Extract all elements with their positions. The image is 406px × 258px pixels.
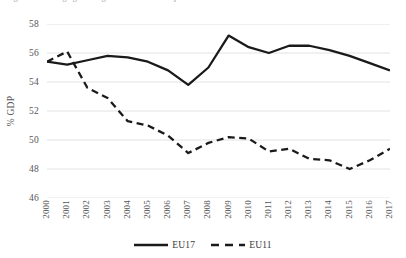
x-axis-tick-label: 2008 bbox=[202, 200, 214, 219]
y-axis-tick-label: 56 bbox=[29, 48, 39, 58]
chart-legend: EU17EU11 bbox=[0, 240, 406, 250]
x-axis-tick-label: 2006 bbox=[162, 200, 174, 219]
y-axis-tick-label: 58 bbox=[29, 19, 39, 29]
x-axis-tick-label: 2004 bbox=[122, 200, 134, 219]
x-axis-tick-label: 2001 bbox=[61, 200, 73, 219]
x-axis-tick-label: 2000 bbox=[41, 200, 53, 219]
y-axis-title: % GDP bbox=[6, 81, 16, 141]
series-line-eu11 bbox=[47, 52, 390, 169]
legend-entry-eu17[interactable]: EU17 bbox=[134, 240, 195, 250]
x-axis-tick-labels: 2000200120022003200420052006200720082009… bbox=[47, 200, 390, 234]
y-axis-tick-label: 52 bbox=[29, 106, 39, 116]
x-axis-tick-label: 2013 bbox=[303, 200, 315, 219]
y-axis-tick-label: 46 bbox=[29, 193, 39, 203]
legend-swatch-eu11 bbox=[211, 241, 245, 249]
figure-container: Figure 1: Average general government tot… bbox=[0, 0, 406, 258]
x-axis-tick-label: 2017 bbox=[384, 200, 396, 219]
y-axis-tick-label: 54 bbox=[29, 77, 39, 87]
x-axis-tick-label: 2014 bbox=[323, 200, 335, 219]
y-axis-tick-label: 50 bbox=[29, 135, 39, 145]
x-axis-tick-label: 2015 bbox=[344, 200, 356, 219]
legend-swatch-eu17 bbox=[134, 241, 168, 249]
x-axis-tick-label: 2002 bbox=[81, 200, 93, 219]
x-axis-tick-label: 2003 bbox=[102, 200, 114, 219]
x-axis-tick-label: 2005 bbox=[142, 200, 154, 219]
figure-title-strip: Figure 1: Average general government tot… bbox=[0, 0, 406, 5]
y-axis-tick-label: 48 bbox=[29, 164, 39, 174]
series-lines bbox=[47, 24, 390, 198]
series-line-eu17 bbox=[47, 36, 390, 85]
x-axis-tick-label: 2011 bbox=[263, 200, 275, 218]
x-axis-tick-label: 2016 bbox=[364, 200, 376, 219]
x-axis-tick-label: 2009 bbox=[223, 200, 235, 219]
figure-title: Figure 1: Average general government tot… bbox=[0, 0, 406, 3]
plot-area bbox=[47, 24, 390, 198]
x-axis-tick-label: 2007 bbox=[182, 200, 194, 219]
x-axis-tick-label: 2012 bbox=[283, 200, 295, 219]
legend-label: EU11 bbox=[249, 240, 272, 250]
legend-label: EU17 bbox=[172, 240, 195, 250]
x-axis-tick-label: 2010 bbox=[243, 200, 255, 219]
legend-entry-eu11[interactable]: EU11 bbox=[211, 240, 272, 250]
